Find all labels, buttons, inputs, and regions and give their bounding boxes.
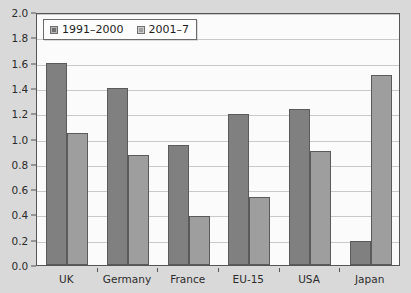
bars-layer <box>37 14 399 265</box>
bar-group <box>350 14 392 265</box>
y-tick-label: 1.8 <box>12 32 28 44</box>
bar <box>189 216 210 265</box>
y-tick-label: 0.0 <box>12 260 28 272</box>
x-tick-label: UK <box>59 273 74 285</box>
y-axis: 0.00.20.40.60.81.01.21.41.61.82.0 <box>0 13 36 266</box>
x-tick-mark <box>97 268 98 272</box>
bar-group <box>46 14 88 265</box>
legend-label: 1991–2000 <box>62 23 124 36</box>
bar <box>128 155 149 265</box>
bar <box>350 241 371 265</box>
x-tick-mark <box>218 268 219 272</box>
bar <box>371 75 392 265</box>
bar-group <box>228 14 270 265</box>
y-tick-label: 1.0 <box>12 134 28 146</box>
bar <box>67 133 88 265</box>
x-tick-mark <box>339 268 340 272</box>
bar <box>249 197 270 265</box>
x-tick-label: France <box>170 273 205 285</box>
y-tick-label: 2.0 <box>12 7 28 19</box>
bar <box>107 88 128 265</box>
y-tick-label: 1.6 <box>12 58 28 70</box>
x-tick-mark <box>157 268 158 272</box>
y-tick-label: 1.2 <box>12 108 28 120</box>
y-tick-label: 0.8 <box>12 159 28 171</box>
chart-legend: 1991–20002001–7 <box>43 19 197 40</box>
y-tick-label: 0.2 <box>12 235 28 247</box>
x-tick-label: Japan <box>355 273 384 285</box>
bar-group <box>107 14 149 265</box>
bar <box>289 109 310 265</box>
legend-swatch-icon <box>137 26 145 34</box>
x-tick-label: USA <box>298 273 320 285</box>
y-tick-label: 1.4 <box>12 83 28 95</box>
plot-area <box>36 13 400 266</box>
x-tick-mark <box>279 268 280 272</box>
bar-chart: 0.00.20.40.60.81.01.21.41.61.82.0 UKGerm… <box>0 0 411 293</box>
legend-swatch-icon <box>50 26 58 34</box>
y-tick-label: 0.4 <box>12 209 28 221</box>
legend-entry: 2001–7 <box>137 23 190 36</box>
bar <box>310 151 331 265</box>
bar <box>46 63 67 265</box>
legend-label: 2001–7 <box>149 23 190 36</box>
x-axis: UKGermanyFranceEU-15USAJapan <box>36 268 400 292</box>
bar-group <box>168 14 210 265</box>
x-tick-label: EU-15 <box>233 273 264 285</box>
bar-group <box>289 14 331 265</box>
bar <box>228 114 249 265</box>
x-tick-label: Germany <box>103 273 151 285</box>
y-tick-label: 0.6 <box>12 184 28 196</box>
bar <box>168 145 189 265</box>
legend-entry: 1991–2000 <box>50 23 124 36</box>
